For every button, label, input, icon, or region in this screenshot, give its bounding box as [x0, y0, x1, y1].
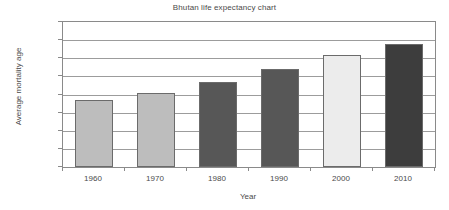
- bar[interactable]: [261, 69, 299, 167]
- bar-slot: [125, 22, 187, 167]
- bar-slot: [63, 22, 125, 167]
- x-tick-mark: [186, 167, 187, 171]
- x-tick-mark: [310, 167, 311, 171]
- x-tick-label: 2010: [372, 174, 434, 183]
- x-tick-mark: [62, 167, 63, 171]
- x-tick-label: 1960: [62, 174, 124, 183]
- y-tick-mark: [58, 57, 62, 58]
- x-axis-title: Year: [62, 192, 434, 201]
- y-tick-mark: [58, 112, 62, 113]
- x-tick-mark: [124, 167, 125, 171]
- bar-slot: [311, 22, 373, 167]
- y-tick-mark: [58, 75, 62, 76]
- y-tick-mark: [58, 94, 62, 95]
- y-tick-mark: [58, 130, 62, 131]
- y-tick-mark: [58, 39, 62, 40]
- x-tick-mark: [248, 167, 249, 171]
- bar[interactable]: [323, 55, 361, 167]
- plot-area: [62, 21, 436, 168]
- x-tick-label: 2000: [310, 174, 372, 183]
- x-tick-label: 1980: [186, 174, 248, 183]
- x-tick-mark: [434, 167, 435, 171]
- x-tick-mark: [372, 167, 373, 171]
- y-axis-title: Average mortality age: [14, 17, 23, 157]
- bar-chart: Bhutan life expectancy chart Average mor…: [0, 0, 449, 210]
- bar[interactable]: [75, 100, 113, 167]
- bar[interactable]: [199, 82, 237, 167]
- bar-slot: [249, 22, 311, 167]
- x-tick-label: 1990: [248, 174, 310, 183]
- y-tick-mark: [58, 21, 62, 22]
- chart-title: Bhutan life expectancy chart: [0, 3, 449, 12]
- bar[interactable]: [385, 44, 423, 167]
- bar-slot: [187, 22, 249, 167]
- x-tick-label: 1970: [124, 174, 186, 183]
- bar-series: [63, 22, 435, 167]
- bar-slot: [373, 22, 435, 167]
- y-tick-mark: [58, 148, 62, 149]
- bar[interactable]: [137, 93, 175, 167]
